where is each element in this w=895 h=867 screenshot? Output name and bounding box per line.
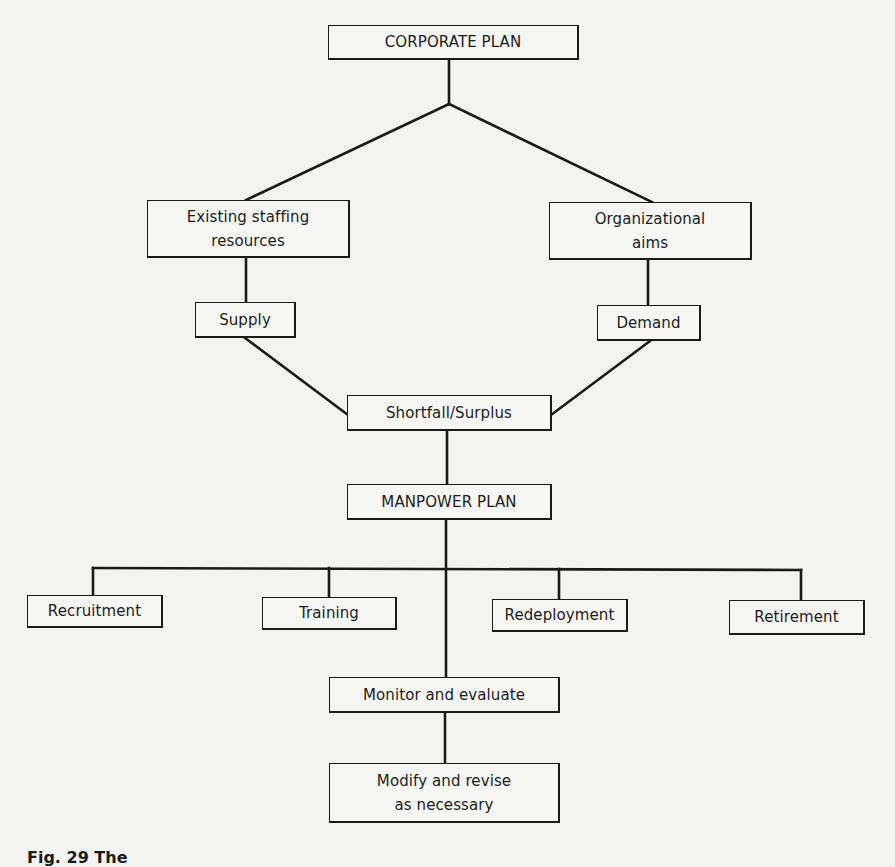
node-modify-and-revise: Modify and revise as necessary [329, 763, 560, 823]
node-shortfall-surplus: Shortfall/Surplus [347, 395, 552, 431]
node-label-line1: Modify and revise [377, 769, 511, 793]
node-label: Retirement [754, 605, 838, 629]
figure-caption: Fig. 29 The [27, 848, 128, 867]
node-label: Training [299, 601, 359, 625]
node-label: Demand [616, 311, 680, 335]
node-label: Recruitment [48, 599, 141, 623]
node-label-line2: as necessary [394, 793, 493, 817]
node-supply: Supply [195, 302, 296, 338]
node-recruitment: Recruitment [27, 595, 163, 628]
node-label: Shortfall/Surplus [386, 401, 512, 425]
node-redeployment: Redeployment [492, 599, 628, 632]
node-label: MANPOWER PLAN [381, 490, 516, 514]
node-existing-staffing-resources: Existing staffing resources [147, 200, 350, 258]
node-training: Training [262, 597, 397, 630]
node-label: CORPORATE PLAN [385, 30, 522, 54]
node-label: Monitor and evaluate [363, 683, 525, 707]
node-corporate-plan: CORPORATE PLAN [328, 25, 579, 60]
node-monitor-and-evaluate: Monitor and evaluate [329, 677, 560, 713]
node-organizational-aims: Organizational aims [549, 202, 752, 260]
node-demand: Demand [597, 305, 701, 341]
node-label-line2: resources [211, 229, 285, 253]
node-label-line1: Existing staffing [187, 205, 310, 229]
node-label: Supply [219, 308, 271, 332]
node-retirement: Retirement [729, 600, 865, 635]
node-manpower-plan: MANPOWER PLAN [347, 484, 552, 520]
node-label-line2: aims [632, 231, 668, 255]
node-label: Redeployment [505, 603, 615, 627]
node-label-line1: Organizational [595, 207, 706, 231]
